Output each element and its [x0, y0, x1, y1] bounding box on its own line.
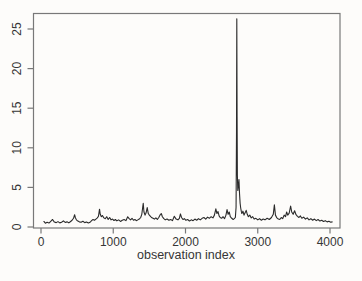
y-tick-label: 20: [10, 62, 24, 76]
y-tick-label: 25: [10, 22, 24, 36]
y-tick-label: 10: [10, 141, 24, 155]
series-line: [44, 19, 332, 224]
x-tick-label: 3000: [244, 235, 271, 249]
chart-canvas: 010002000300040000510152025 observation …: [0, 0, 362, 281]
x-axis-title: observation index: [137, 248, 236, 262]
plot-area-border: [34, 14, 341, 229]
axis-ticks-layer: 010002000300040000510152025: [10, 22, 344, 249]
series-layer: [44, 19, 332, 224]
x-tick-label: 4000: [317, 235, 344, 249]
y-tick-label: 0: [10, 223, 24, 230]
x-tick-label: 2000: [172, 235, 199, 249]
y-tick-label: 15: [10, 101, 24, 115]
x-tick-label: 1000: [100, 235, 127, 249]
x-tick-label: 0: [38, 235, 45, 249]
y-tick-label: 5: [10, 184, 24, 191]
r-base-plot-figure: 010002000300040000510152025 observation …: [0, 0, 362, 281]
